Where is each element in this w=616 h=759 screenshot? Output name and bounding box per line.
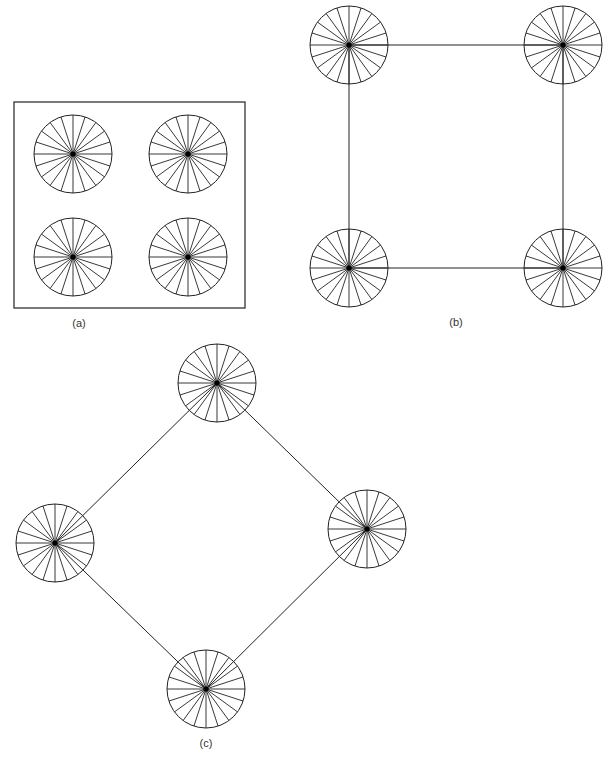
wheel-spoke [73,154,96,186]
wheel-spoke [36,142,73,154]
wheel-spoke [326,45,349,77]
wheel-spoke [73,234,105,257]
wheel-spoke [165,154,188,186]
wheel-hub [52,540,57,545]
wheel-spoke [55,543,87,566]
panel-c [16,344,406,728]
wheel-spoke [55,520,87,543]
wheel-spoke [176,220,188,257]
wheel-spoke [50,225,73,257]
spoked-wheel-icon [34,218,112,296]
wheel-hub [560,42,565,47]
wheel-spoke [61,220,73,257]
connector-line [206,529,367,689]
wheel-spoke [349,268,372,300]
figure-canvas [0,0,616,759]
panel-label-b: (b) [449,316,462,328]
spoked-wheel-icon [524,229,602,307]
spoked-wheel-icon [310,6,388,84]
spoked-wheel-icon [524,6,602,84]
wheel-spoke [188,257,225,269]
wheel-spoke [563,22,595,45]
wheel-spoke [367,517,404,529]
wheel-spoke [183,657,206,689]
wheel-hub [185,151,190,156]
wheel-spoke [194,351,217,383]
wheel-spoke [41,131,73,154]
spoked-wheel-icon [328,490,406,568]
wheel-spoke [73,131,105,154]
wheel-spoke [563,45,595,68]
wheel-spoke [185,383,217,406]
wheel-spoke [73,225,96,257]
wheel-spoke [217,383,249,406]
wheel-spoke [531,268,563,291]
wheel-spoke [61,154,73,191]
wheel-spoke [217,360,249,383]
wheel-spoke [61,117,73,154]
wheel-spoke [563,256,600,268]
wheel-spoke [165,225,188,257]
wheel-spoke [183,689,206,721]
wheel-spoke [349,268,381,291]
panel-b [310,6,602,307]
wheel-spoke [169,689,206,701]
wheel-spoke [36,245,73,257]
wheel-spoke [217,383,240,415]
wheel-spoke [326,13,349,45]
wheel-spoke [317,22,349,45]
wheel-spoke [217,346,229,383]
wheel-spoke [188,154,211,186]
spoked-wheel-icon [149,218,227,296]
wheel-spoke [176,117,188,154]
wheel-spoke [349,13,372,45]
wheel-spoke [563,45,586,77]
wheel-spoke [563,231,575,268]
wheel-spoke [563,8,575,45]
wheel-spoke [349,45,361,82]
wheel-spoke [18,531,55,543]
wheel-spoke [194,383,217,415]
wheel-spoke [32,511,55,543]
wheel-spoke [367,492,379,529]
wheel-spoke [188,131,220,154]
wheel-spoke [563,245,595,268]
wheel-spoke [188,257,220,280]
wheel-spoke [151,142,188,154]
wheel-spoke [174,666,206,689]
wheel-spoke [367,506,399,529]
wheel-spoke [23,543,55,566]
wheel-spoke [349,8,361,45]
wheel-spoke [526,268,563,280]
wheel-spoke [36,257,73,269]
wheel-spoke [73,257,105,280]
wheel-spoke [188,225,211,257]
wheel-spoke [205,346,217,383]
wheel-spoke [367,529,379,566]
wheel-spoke [349,22,381,45]
wheel-spoke [551,45,563,82]
wheel-spoke [151,245,188,257]
wheel-spoke [185,360,217,383]
wheel-hub [346,42,351,47]
wheel-spoke [32,543,55,575]
wheel-spoke [188,257,200,294]
wheel-spoke [312,268,349,280]
wheel-spoke [188,142,225,154]
wheel-spoke [36,154,73,166]
wheel-spoke [194,689,206,726]
wheel-spoke [73,117,85,154]
wheel-spoke [563,33,600,45]
spoked-wheel-icon [167,650,245,728]
wheel-spoke [156,234,188,257]
wheel-spoke [563,268,575,305]
wheel-spoke [206,689,229,721]
wheel-spoke [50,122,73,154]
wheel-spoke [326,236,349,268]
wheel-spoke [50,154,73,186]
wheel-spoke [73,154,110,166]
wheel-spoke [312,33,349,45]
wheel-spoke [540,13,563,45]
wheel-spoke [526,45,563,57]
wheel-spoke [165,257,188,289]
